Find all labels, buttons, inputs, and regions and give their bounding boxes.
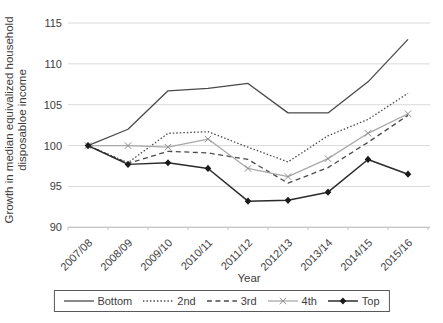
y-tick-label-90: 90 <box>50 221 62 233</box>
legend-item-top: Top <box>328 295 380 307</box>
chart-legend: Bottom2nd3rd4thTop <box>53 290 389 312</box>
legend-label-2nd: 2nd <box>177 296 195 307</box>
y-tick-label-115: 115 <box>44 17 62 29</box>
chart-canvas: Growth in median equivalized household d… <box>0 0 443 323</box>
legend-line-sample-3rd <box>207 295 237 307</box>
legend-item-4th: 4th <box>268 295 317 307</box>
legend-item-2nd: 2nd <box>143 295 195 307</box>
income-growth-line-chart: Growth in median equivalized household d… <box>0 0 443 323</box>
series-line-2nd <box>88 93 408 162</box>
legend-line-sample-top <box>328 295 358 307</box>
x-tick-label-2008-09: 2008/09 <box>98 236 135 273</box>
legend-line-sample-bottom <box>63 295 93 307</box>
legend-label-3rd: 3rd <box>241 296 257 307</box>
series-line-bottom <box>88 39 408 145</box>
legend-line-sample-4th <box>268 295 298 307</box>
x-tick-label-2014-15: 2014/15 <box>338 236 375 273</box>
x-tick-label-2011-12: 2011/12 <box>218 236 254 272</box>
y-tick-label-100: 100 <box>44 140 62 152</box>
y-tick-label-95: 95 <box>50 180 62 192</box>
y-tick-label-105: 105 <box>44 99 62 111</box>
marker-diamond-top-5 <box>285 197 292 204</box>
x-tick-label-2009-10: 2009/10 <box>138 236 175 273</box>
marker-diamond-top-1 <box>125 161 132 168</box>
legend-item-bottom: Bottom <box>63 295 132 307</box>
x-tick-label-2013-14: 2013/14 <box>298 236 335 273</box>
y-axis-title-line1: Growth in median equivalized household <box>3 16 15 223</box>
series-line-3rd <box>88 115 408 183</box>
legend-line-sample-2nd <box>143 295 173 307</box>
y-axis-title-line2: disposabloe income <box>16 69 28 171</box>
legend-label-top: Top <box>362 296 380 307</box>
legend-marker-diamond <box>340 297 347 304</box>
marker-x-4th-7 <box>365 130 371 136</box>
plot-area: 90951001051101152007/082008/092009/10201… <box>44 17 430 273</box>
x-tick-label-2010-11: 2010/11 <box>178 236 214 272</box>
series-line-top <box>88 146 408 202</box>
marker-diamond-top-8 <box>405 171 412 178</box>
y-tick-label-110: 110 <box>44 58 62 70</box>
legend-label-bottom: Bottom <box>97 296 132 307</box>
marker-x-4th-6 <box>325 155 331 161</box>
x-axis-title: Year <box>237 272 260 284</box>
x-tick-label-2007-08: 2007/08 <box>58 236 95 273</box>
legend-label-4th: 4th <box>302 296 317 307</box>
marker-diamond-top-2 <box>165 159 172 166</box>
legend-item-3rd: 3rd <box>207 295 257 307</box>
x-tick-label-2015-16: 2015/16 <box>378 236 415 273</box>
x-tick-label-2012-13: 2012/13 <box>258 236 295 273</box>
